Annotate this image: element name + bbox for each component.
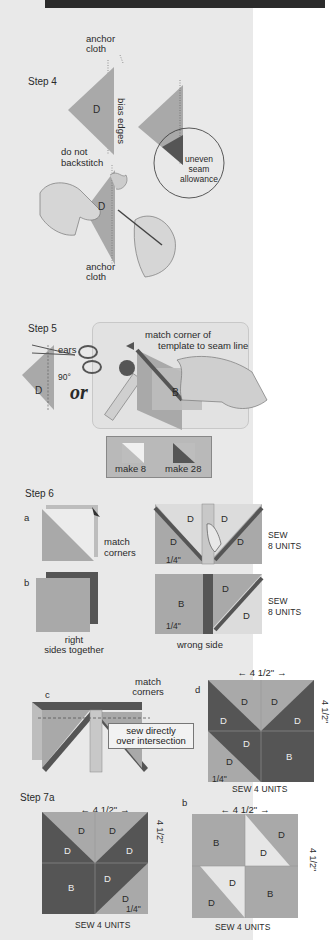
unit-cell: D bbox=[170, 537, 177, 547]
block-cell: D bbox=[243, 739, 250, 749]
d-height-dimension: 4 1/2" bbox=[320, 700, 330, 723]
sew-4-units-label: SEW 4 UNITS bbox=[75, 920, 130, 930]
step4-title: Step 4 bbox=[28, 77, 57, 87]
block-cell: D bbox=[278, 830, 285, 840]
unit-cell: D bbox=[243, 611, 250, 621]
make-8-label: make 8 bbox=[115, 464, 146, 474]
step6b-square bbox=[36, 572, 100, 634]
make-counts-box: make 8 make 28 bbox=[106, 436, 212, 478]
quarter-inch-label: 1/4" bbox=[166, 621, 181, 631]
block-cell: D bbox=[241, 697, 248, 707]
rotary-cutter-icon bbox=[119, 360, 135, 376]
sew-units-label-2: 8 UNITS bbox=[268, 541, 301, 551]
sewing-triangle-label: D bbox=[98, 202, 105, 212]
right-hand-icon bbox=[134, 216, 175, 277]
quarter-inch-label: 1/4" bbox=[126, 904, 141, 914]
block-cell: B bbox=[267, 889, 273, 899]
quarter-inch-label: 1/4" bbox=[166, 555, 181, 565]
ears-label: ears bbox=[58, 345, 76, 355]
step7a-block bbox=[42, 812, 148, 914]
unit-cell: B bbox=[178, 599, 184, 609]
block-cell: B bbox=[213, 838, 219, 848]
block-cell: D bbox=[126, 846, 133, 856]
hand-icon bbox=[177, 356, 267, 408]
match-corner-label: match corner of bbox=[145, 330, 211, 340]
section-banner bbox=[45, 0, 325, 8]
sew-intersection-note: sew directlyover intersection bbox=[108, 723, 194, 749]
block-cell: D bbox=[78, 826, 85, 836]
block-cell: D bbox=[109, 826, 116, 836]
block-cell: D bbox=[208, 898, 215, 908]
unit-cell: D bbox=[237, 537, 244, 547]
wrong-side-label: wrong side bbox=[177, 640, 223, 650]
sew-4-units-label: SEW 4 UNITS bbox=[215, 922, 270, 932]
quarter-inch-label: 1/4" bbox=[212, 774, 227, 784]
d-width-dimension: ← 4 1/2" → bbox=[212, 668, 312, 678]
rotary-cutter-figure bbox=[82, 340, 282, 432]
triangle-d-label: D bbox=[93, 105, 100, 115]
block-cell: D bbox=[220, 716, 227, 726]
step5-title: Step 5 bbox=[28, 324, 57, 334]
a-height-dimension: 4 1/2" bbox=[155, 820, 165, 843]
step6c-label: c bbox=[45, 690, 50, 700]
make-28-label: make 28 bbox=[165, 464, 201, 474]
match-corners-label-2: corners bbox=[104, 548, 136, 558]
right-sides-label: rightsides together bbox=[34, 635, 114, 655]
block-cell: D bbox=[226, 757, 233, 767]
angle-90-label: 90° bbox=[58, 372, 71, 382]
unit-cell: D bbox=[187, 514, 194, 524]
block-cell: D bbox=[229, 878, 236, 888]
step7b-label: b bbox=[182, 798, 187, 808]
step6a-square bbox=[40, 505, 102, 565]
sew-4-units-label: SEW 4 UNITS bbox=[232, 784, 287, 794]
bias-edges-label: bias edges bbox=[116, 98, 126, 144]
step6d-label: d bbox=[195, 685, 200, 695]
b-height-dimension: 4 1/2" bbox=[308, 848, 318, 871]
step6a-label: a bbox=[24, 513, 29, 523]
sew-units-label: SEW bbox=[268, 596, 288, 606]
block-cell: D bbox=[122, 894, 129, 904]
step5-triangle-label: D bbox=[35, 386, 42, 396]
c-match-corners-label: matchcorners bbox=[128, 677, 168, 697]
step7a-title: Step 7a bbox=[20, 793, 54, 803]
anchor-cloth-top-label-2: cloth bbox=[86, 44, 106, 54]
block-cell: D bbox=[64, 846, 71, 856]
block-cell: D bbox=[104, 874, 111, 884]
anchor-cloth-bottom-label-2: cloth bbox=[86, 272, 106, 282]
sew-units-label-2: 8 UNITS bbox=[268, 607, 301, 617]
step6-title: Step 6 bbox=[25, 489, 54, 499]
template-b-label: B bbox=[172, 388, 179, 398]
block-cell: D bbox=[294, 716, 301, 726]
block-cell: D bbox=[271, 697, 278, 707]
block-cell: D bbox=[260, 848, 267, 858]
do-not-backstitch-label: do not bbox=[61, 147, 87, 157]
block-cell: B bbox=[68, 883, 74, 893]
step6d-block bbox=[208, 680, 314, 782]
step6b-label: b bbox=[24, 578, 29, 588]
unit-cell: D bbox=[221, 514, 228, 524]
left-hand-icon bbox=[40, 183, 100, 235]
match-corner-label-2: template to seam line bbox=[158, 341, 248, 351]
block-cell: B bbox=[286, 752, 292, 762]
triangle-d bbox=[68, 67, 114, 155]
match-corners-label: match bbox=[104, 537, 130, 547]
sew-units-label: SEW bbox=[268, 530, 288, 540]
unit-cell: D bbox=[222, 584, 229, 594]
